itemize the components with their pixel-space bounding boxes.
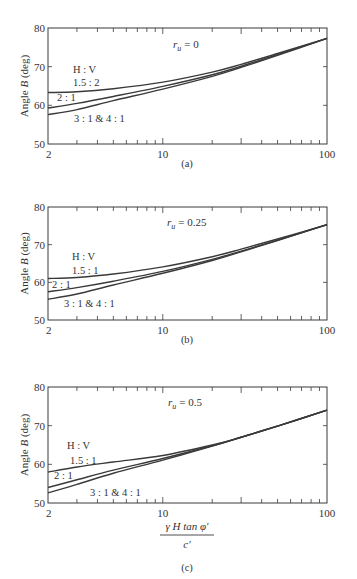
y-tick-label: 70 (34, 61, 46, 73)
y-tick-label: 70 (34, 420, 46, 432)
panel-label: (b) (181, 334, 194, 346)
chart-panel-c: 50607080210100Angle B (deg)ru= 0.5H : V1… (18, 381, 336, 574)
x-tick-label: 100 (319, 507, 336, 519)
x-axis-label-denominator: c′ (183, 538, 191, 550)
series-label: 3 : 1 & 4 : 1 (74, 113, 125, 124)
y-tick-label: 80 (34, 22, 46, 34)
series-label: 1.5 : 1 (72, 265, 99, 276)
legend-header: H : V (67, 440, 91, 451)
legend-header: H : V (73, 64, 97, 75)
ru-annotation: ru= 0.5 (168, 396, 202, 411)
y-tick-label: 50 (34, 497, 46, 509)
x-tick-label: 2 (46, 324, 52, 336)
x-tick-label: 10 (157, 324, 169, 336)
chart-panel-a: 50607080210100Angle B (deg)ru= 0H : V1.5… (18, 22, 336, 170)
panel-label: (c) (181, 562, 193, 574)
x-tick-label: 10 (157, 148, 169, 160)
series-label: 3 : 1 & 4 : 1 (64, 298, 115, 309)
series-label: 2 : 1 (57, 92, 76, 103)
chart-panel-b: 50607080210100Angle B (deg)ru= 0.25H : V… (18, 201, 336, 346)
x-tick-label: 2 (46, 507, 52, 519)
y-tick-label: 60 (34, 99, 46, 111)
series-label: 2 : 1 (54, 470, 73, 481)
x-tick-label: 10 (157, 507, 169, 519)
series-label: 1.5 : 1 (70, 455, 97, 466)
y-tick-label: 70 (34, 239, 46, 251)
ru-annotation: ru= 0.25 (167, 216, 207, 231)
y-axis-label: Angle B (deg) (18, 55, 31, 118)
series-label: 2 : 1 (52, 279, 71, 290)
y-tick-label: 80 (34, 381, 46, 393)
ru-annotation: ru= 0 (173, 38, 199, 53)
legend-header: H : V (72, 251, 96, 262)
y-tick-label: 80 (34, 201, 46, 213)
x-tick-label: 100 (319, 324, 336, 336)
series-label: 1.5 : 2 (73, 77, 100, 88)
x-tick-label: 100 (319, 148, 336, 160)
panel-label: (a) (181, 158, 193, 170)
y-axis-label: Angle B (deg) (18, 414, 31, 477)
series-label: 3 : 1 & 4 : 1 (90, 487, 141, 498)
figure-canvas: 50607080210100Angle B (deg)ru= 0H : V1.5… (0, 0, 357, 579)
y-axis-label: Angle B (deg) (18, 232, 31, 295)
x-tick-label: 2 (46, 148, 52, 160)
curve-3-1-4-1 (48, 410, 327, 493)
x-axis-label-numerator: γ H tan φ′ (165, 520, 209, 532)
y-tick-label: 60 (34, 276, 46, 288)
y-tick-label: 50 (34, 138, 46, 150)
y-tick-label: 60 (34, 458, 46, 470)
y-tick-label: 50 (34, 314, 46, 326)
